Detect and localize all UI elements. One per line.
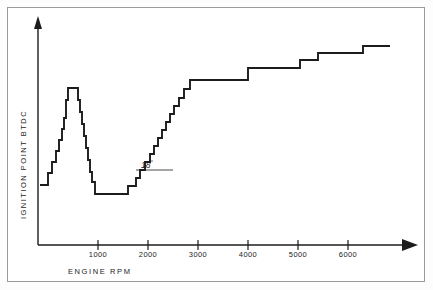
degree-symbol-icon: ° (150, 159, 152, 165)
y-axis-title: IGNITION POINT BTDC (19, 100, 28, 230)
x-tick-label-2000: 2000 (139, 250, 157, 259)
x-axis-arrowhead (402, 239, 418, 251)
chart-canvas (0, 0, 433, 290)
x-tick-label-6000: 6000 (339, 250, 357, 259)
ignition-timing-figure: 1000 2000 3000 4000 5000 6000 ENGINE RPM… (0, 0, 433, 290)
x-tick-label-3000: 3000 (189, 250, 207, 259)
x-tick-label-4000: 4000 (239, 250, 257, 259)
ignition-advance-curve (40, 46, 390, 194)
x-tick-label-1000: 1000 (89, 250, 107, 259)
y-axis-arrowhead (34, 16, 42, 29)
step-height-callout: 18° (141, 159, 153, 170)
x-axis-title: ENGINE RPM (68, 267, 132, 276)
x-tick-label-5000: 5000 (289, 250, 307, 259)
